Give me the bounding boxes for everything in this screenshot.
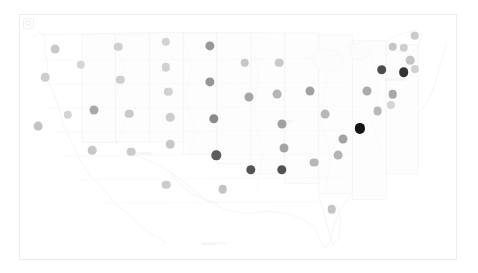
map-data-point[interactable] [410, 65, 418, 73]
map-data-point[interactable] [164, 88, 172, 96]
map-data-point[interactable] [34, 122, 43, 131]
map-data-point[interactable] [321, 109, 330, 118]
map-data-point[interactable] [50, 45, 59, 54]
map-data-point[interactable] [162, 63, 170, 71]
map-data-point[interactable] [166, 140, 175, 149]
map-data-point[interactable] [205, 78, 214, 87]
map-data-point[interactable] [362, 86, 371, 95]
map-data-point[interactable] [162, 180, 171, 189]
map-data-point[interactable] [277, 165, 286, 174]
map-data-point[interactable] [334, 151, 343, 160]
map-data-point[interactable] [273, 90, 282, 99]
map-data-point[interactable] [373, 107, 382, 116]
map-data-point[interactable] [125, 110, 134, 119]
map-data-point[interactable] [88, 146, 97, 155]
zoom-control[interactable] [23, 18, 34, 29]
map-data-point[interactable] [116, 75, 124, 83]
map-data-point[interactable] [388, 90, 397, 99]
map-data-point[interactable] [279, 143, 288, 152]
map-data-point[interactable] [310, 158, 319, 167]
map-data-point[interactable] [277, 119, 286, 128]
map-data-point[interactable] [166, 113, 175, 122]
map-data-point[interactable] [205, 41, 214, 50]
map-data-point[interactable] [211, 151, 220, 160]
map-data-point[interactable] [162, 38, 170, 46]
map-container[interactable]: KANSAS CITYDENVERCHICAGONEW YORK [19, 14, 457, 260]
map-data-point[interactable] [406, 56, 415, 65]
map-data-point[interactable] [114, 42, 123, 51]
magnifier-icon [24, 19, 33, 28]
map-data-point[interactable] [77, 61, 85, 69]
map-data-point[interactable] [275, 58, 284, 67]
data-point-layer [20, 15, 456, 259]
map-data-point[interactable] [388, 42, 397, 51]
map-data-point[interactable] [41, 73, 50, 82]
map-data-point[interactable] [90, 106, 99, 115]
map-data-point[interactable] [209, 114, 218, 123]
map-data-point[interactable] [399, 44, 407, 52]
map-data-point[interactable] [399, 68, 409, 78]
map-data-point[interactable] [387, 101, 395, 109]
map-data-point[interactable] [64, 111, 72, 119]
map-data-point[interactable] [305, 86, 314, 95]
map-data-point[interactable] [218, 185, 227, 194]
map-data-point[interactable] [127, 147, 136, 156]
map-data-point[interactable] [246, 165, 255, 174]
map-data-point[interactable] [327, 205, 336, 214]
map-data-point[interactable] [240, 58, 249, 67]
map-data-point[interactable] [410, 31, 419, 40]
map-data-point[interactable] [355, 123, 365, 133]
map-data-point[interactable] [244, 92, 253, 101]
map-data-point[interactable] [377, 65, 387, 75]
map-data-point[interactable] [338, 135, 347, 144]
